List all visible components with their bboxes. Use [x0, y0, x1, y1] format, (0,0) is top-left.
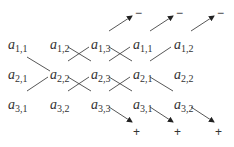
matrix-entry: a3,3 — [91, 98, 111, 114]
matrix-entry: a1,1 — [8, 38, 28, 54]
entry-subscript: 2,1 — [15, 73, 28, 84]
entry-subscript: 3,1 — [140, 103, 153, 114]
matrix-entry: a2,2 — [50, 68, 70, 84]
entry-subscript: 1,1 — [15, 43, 28, 54]
plus-sign: + — [174, 126, 181, 138]
entry-subscript: 1,3 — [98, 43, 111, 54]
matrix-entry: a3,2 — [174, 98, 194, 114]
entry-subscript: 3,2 — [57, 103, 70, 114]
matrix-entry: a2,1 — [8, 68, 28, 84]
entry-base: a — [8, 37, 15, 52]
matrix-entry: a1,1 — [133, 38, 153, 54]
entry-base: a — [174, 37, 181, 52]
diagonal-lines — [0, 0, 234, 147]
matrix-entry: a2,2 — [174, 68, 194, 84]
entry-base: a — [8, 67, 15, 82]
entry-subscript: 2,2 — [57, 73, 70, 84]
entry-base: a — [133, 67, 140, 82]
matrix-entry: a3,2 — [50, 98, 70, 114]
minus-sign: − — [217, 7, 224, 19]
entry-base: a — [133, 37, 140, 52]
entry-base: a — [91, 37, 98, 52]
plus-sign: + — [215, 126, 222, 138]
entry-subscript: 2,2 — [181, 73, 194, 84]
entry-base: a — [174, 97, 181, 112]
minus-sign: − — [135, 7, 142, 19]
sarrus-diagram: a1,1a1,2a1,3a1,1a1,2a2,1a2,2a2,3a2,1a2,2… — [0, 0, 234, 147]
entry-base: a — [133, 97, 140, 112]
entry-base: a — [8, 97, 15, 112]
plus-sign: + — [133, 126, 140, 138]
entry-base: a — [50, 67, 57, 82]
entry-subscript: 1,2 — [181, 43, 194, 54]
entry-base: a — [50, 97, 57, 112]
entry-subscript: 3,2 — [181, 103, 194, 114]
entry-subscript: 2,3 — [98, 73, 111, 84]
matrix-entry: a3,1 — [133, 98, 153, 114]
matrix-entry: a1,2 — [174, 38, 194, 54]
matrix-entry: a1,3 — [91, 38, 111, 54]
entry-base: a — [174, 67, 181, 82]
entry-subscript: 3,1 — [15, 103, 28, 114]
matrix-entry: a3,1 — [8, 98, 28, 114]
entry-subscript: 1,1 — [140, 43, 153, 54]
entry-base: a — [50, 37, 57, 52]
entry-subscript: 2,1 — [140, 73, 153, 84]
entry-subscript: 1,2 — [57, 43, 70, 54]
minus-sign: − — [176, 7, 183, 19]
matrix-entry: a2,3 — [91, 68, 111, 84]
matrix-entry: a2,1 — [133, 68, 153, 84]
matrix-entry: a1,2 — [50, 38, 70, 54]
down-diagonal-1-seg — [27, 57, 50, 71]
entry-base: a — [91, 67, 98, 82]
entry-base: a — [91, 97, 98, 112]
entry-subscript: 3,3 — [98, 103, 111, 114]
